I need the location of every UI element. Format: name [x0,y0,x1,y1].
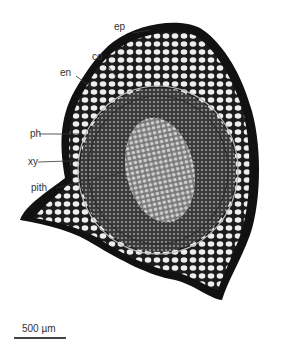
stem-cross-section-image [0,0,281,344]
label-xylem: xy [28,157,38,167]
label-phloem: ph [30,129,41,139]
label-endodermis: en [60,68,71,78]
scale-bar-label: 500 µm [22,323,56,334]
scale-bar [14,337,66,339]
micrograph-figure: ep co en ph xy pith 500 µm [0,0,281,344]
label-pith: pith [31,183,47,193]
label-cortex: co [92,52,103,62]
label-epidermis: ep [114,22,125,32]
